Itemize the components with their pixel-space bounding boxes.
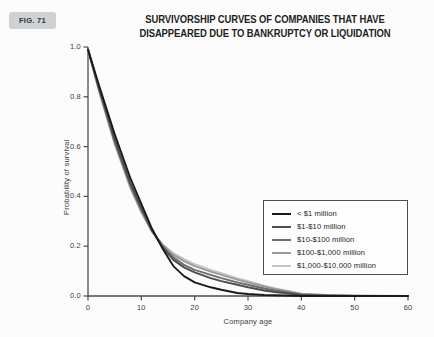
legend-item: $1-$10 million bbox=[272, 220, 407, 233]
chart-legend: < $1 million$1-$10 million$10-$100 milli… bbox=[263, 200, 408, 275]
legend-item: < $1 million bbox=[272, 207, 407, 220]
figure-panel: FIG. 71 SURVIVORSHIP CURVES OF COMPANIES… bbox=[0, 0, 434, 337]
x-axis-tick-label: 20 bbox=[175, 303, 215, 312]
x-axis-tick-label: 10 bbox=[121, 303, 161, 312]
x-axis-tick-label: 50 bbox=[335, 303, 375, 312]
y-axis-tick-label: 0.0 bbox=[42, 291, 81, 300]
y-axis-tick-label: 0.2 bbox=[42, 241, 81, 250]
y-axis-tick-label: 0.6 bbox=[42, 142, 81, 151]
legend-item-label: $10-$100 million bbox=[297, 235, 354, 244]
legend-color-swatch bbox=[272, 239, 291, 241]
legend-color-swatch bbox=[272, 252, 291, 254]
legend-color-swatch bbox=[272, 226, 291, 228]
x-axis-tick-label: 0 bbox=[68, 303, 108, 312]
y-axis-title: Probability of survival bbox=[62, 140, 71, 215]
x-axis-title: Company age bbox=[88, 317, 408, 326]
legend-item-label: $1,000-$10,000 million bbox=[297, 261, 376, 270]
x-axis-tick-label: 30 bbox=[228, 303, 268, 312]
legend-item-label: $100-$1,000 million bbox=[297, 248, 365, 257]
legend-item: $10-$100 million bbox=[272, 233, 407, 246]
legend-color-swatch bbox=[272, 213, 291, 215]
legend-color-swatch bbox=[272, 265, 291, 267]
x-axis-tick-label: 60 bbox=[388, 303, 428, 312]
x-axis-tick-label: 40 bbox=[281, 303, 321, 312]
y-axis-tick-label: 0.8 bbox=[42, 92, 81, 101]
legend-item: $1,000-$10,000 million bbox=[272, 259, 407, 272]
y-axis-tick-label: 1.0 bbox=[42, 42, 81, 51]
legend-item: $100-$1,000 million bbox=[272, 246, 407, 259]
legend-item-label: < $1 million bbox=[297, 209, 337, 218]
legend-item-label: $1-$10 million bbox=[297, 222, 346, 231]
y-axis-tick-label: 0.4 bbox=[42, 191, 81, 200]
